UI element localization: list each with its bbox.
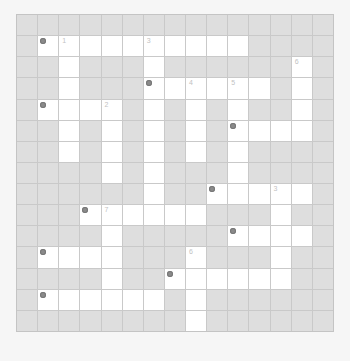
grid-cell-open[interactable] (59, 121, 79, 141)
grid-cell-open[interactable] (59, 100, 79, 120)
grid-cell-open[interactable] (144, 163, 164, 183)
grid-cell-open[interactable] (249, 184, 269, 204)
grid-cell-open[interactable] (228, 269, 248, 289)
grid-cell-open[interactable] (59, 247, 79, 267)
grid-cell-open[interactable] (38, 247, 58, 267)
grid-cell-blocked (207, 163, 227, 183)
grid-cell-open[interactable]: 3 (271, 184, 291, 204)
grid-cell-blocked (313, 290, 333, 310)
grid-cell-open[interactable]: 2 (102, 100, 122, 120)
grid-cell-open[interactable] (186, 36, 206, 56)
grid-cell-open[interactable] (207, 269, 227, 289)
grid-cell-open[interactable] (144, 78, 164, 98)
grid-cell-open[interactable] (271, 205, 291, 225)
grid-cell-blocked (17, 290, 37, 310)
grid-cell-open[interactable]: 6 (292, 57, 312, 77)
grid-cell-open[interactable] (271, 269, 291, 289)
grid-cell-open[interactable] (249, 269, 269, 289)
grid-cell-open[interactable]: 6 (186, 247, 206, 267)
clue-start-marker-icon (40, 249, 46, 255)
grid-cell-open[interactable] (102, 121, 122, 141)
grid-cell-open[interactable] (292, 184, 312, 204)
grid-cell-open[interactable] (144, 205, 164, 225)
grid-cell-open[interactable] (102, 36, 122, 56)
grid-cell-open[interactable]: 7 (102, 205, 122, 225)
grid-cell-open[interactable] (228, 142, 248, 162)
grid-cell-open[interactable] (38, 100, 58, 120)
grid-cell-open[interactable] (249, 78, 269, 98)
grid-cell-open[interactable] (271, 247, 291, 267)
grid-cell-blocked (313, 142, 333, 162)
grid-cell-open[interactable] (207, 78, 227, 98)
grid-cell-open[interactable] (80, 247, 100, 267)
grid-cell-open[interactable] (292, 226, 312, 246)
grid-cell-open[interactable] (228, 100, 248, 120)
grid-cell-blocked (165, 100, 185, 120)
grid-cell-open[interactable] (80, 205, 100, 225)
grid-cell-open[interactable] (144, 184, 164, 204)
grid-cell-open[interactable] (165, 36, 185, 56)
grid-cell-open[interactable] (144, 142, 164, 162)
grid-cell-open[interactable] (292, 100, 312, 120)
grid-cell-open[interactable] (102, 290, 122, 310)
grid-cell-open[interactable] (186, 100, 206, 120)
grid-cell-blocked (38, 15, 58, 35)
grid-cell-open[interactable] (144, 57, 164, 77)
grid-cell-open[interactable] (165, 269, 185, 289)
grid-cell-open[interactable] (80, 36, 100, 56)
grid-cell-open[interactable] (123, 290, 143, 310)
grid-cell-open[interactable] (38, 290, 58, 310)
grid-cell-open[interactable] (102, 269, 122, 289)
grid-cell-open[interactable] (249, 226, 269, 246)
grid-cell-open[interactable] (123, 36, 143, 56)
grid-cell-open[interactable] (292, 78, 312, 98)
grid-cell-open[interactable] (228, 226, 248, 246)
grid-cell-open[interactable] (59, 290, 79, 310)
grid-cell-open[interactable] (102, 163, 122, 183)
grid-cell-open[interactable] (186, 142, 206, 162)
grid-cell-open[interactable] (207, 184, 227, 204)
grid-cell-open[interactable] (186, 121, 206, 141)
grid-cell-blocked (38, 269, 58, 289)
grid-cell-open[interactable] (186, 269, 206, 289)
grid-cell-open[interactable] (207, 36, 227, 56)
grid-cell-open[interactable] (144, 290, 164, 310)
grid-cell-blocked (292, 247, 312, 267)
grid-cell-open[interactable] (249, 121, 269, 141)
clue-start-marker-icon (40, 102, 46, 108)
grid-cell-blocked (144, 269, 164, 289)
grid-cell-open[interactable] (80, 290, 100, 310)
grid-cell-open[interactable] (123, 205, 143, 225)
grid-cell-open[interactable] (144, 121, 164, 141)
grid-cell-open[interactable]: 3 (144, 36, 164, 56)
grid-cell-open[interactable] (228, 121, 248, 141)
clue-start-marker-icon (146, 80, 152, 86)
grid-cell-open[interactable] (38, 36, 58, 56)
grid-cell-open[interactable] (186, 290, 206, 310)
grid-cell-open[interactable]: 4 (186, 78, 206, 98)
grid-cell-open[interactable] (144, 100, 164, 120)
grid-cell-blocked (17, 36, 37, 56)
grid-cell-blocked (313, 269, 333, 289)
grid-cell-open[interactable] (186, 205, 206, 225)
grid-cell-open[interactable] (80, 100, 100, 120)
grid-cell-open[interactable] (59, 57, 79, 77)
grid-cell-open[interactable] (271, 226, 291, 246)
grid-cell-open[interactable] (165, 205, 185, 225)
grid-cell-open[interactable] (228, 36, 248, 56)
grid-cell-open[interactable] (228, 184, 248, 204)
grid-cell-blocked (249, 247, 269, 267)
grid-cell-open[interactable] (59, 78, 79, 98)
grid-cell-open[interactable] (165, 78, 185, 98)
grid-cell-open[interactable] (271, 121, 291, 141)
grid-cell-open[interactable] (186, 311, 206, 331)
grid-cell-open[interactable] (102, 226, 122, 246)
grid-cell-open[interactable]: 1 (59, 36, 79, 56)
grid-cell-open[interactable] (102, 142, 122, 162)
grid-cell-open[interactable]: 5 (228, 78, 248, 98)
grid-cell-open[interactable] (292, 121, 312, 141)
grid-cell-open[interactable] (228, 163, 248, 183)
grid-cell-open[interactable] (102, 247, 122, 267)
grid-cell-open[interactable] (59, 142, 79, 162)
grid-cell-blocked (80, 142, 100, 162)
